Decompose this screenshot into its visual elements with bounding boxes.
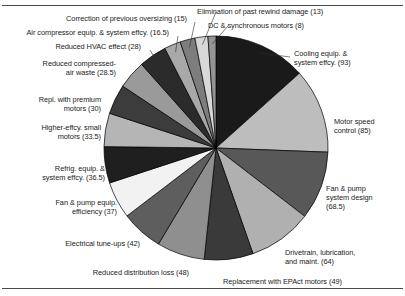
slice-label-dc-sync-motors: DC & synchronous motors (8) (208, 22, 304, 31)
slice-label-electrical-tuneups: Electrical tune-ups (42) (0, 240, 140, 249)
slice-label-epact-motors: Replacement with EPAct motors (49) (223, 278, 342, 287)
slice-label-distribution-loss: Reduced distribution loss (48) (0, 269, 189, 278)
slice-label-small-motors: Higher-effcy. small motors (33.5) (0, 124, 101, 142)
slice-label-motor-speed-control: Motor speed control (85) (334, 118, 375, 136)
pie-chart-figure: Cooling equip. & system effcy. (93) Moto… (0, 0, 405, 296)
slice-label-cooling-equip: Cooling equip. & system effcy. (93) (294, 50, 351, 68)
pie-slice-group (104, 36, 328, 260)
slice-label-hvac-effect: Reduced HVAC effect (28) (0, 43, 141, 52)
slice-label-fan-pump-equip: Fan & pump equip. efficiency (37) (0, 199, 117, 217)
slice-label-fan-pump-system: Fan & pump system design (68.5) (326, 185, 373, 211)
slice-label-refrig-equip: Refrig. equip. & system effcy. (36.5) (0, 165, 105, 183)
slice-label-rewind-damage: Elimination of past rewind damage (13) (197, 8, 323, 17)
slice-label-air-compressor: Air compressor equip. & system effcy. (1… (0, 29, 169, 38)
slice-label-compressed-air: Reduced compressed- air waste (28.5) (0, 60, 116, 78)
slice-label-drivetrain: Drivetrain, lubrication, and maint. (64) (285, 249, 355, 267)
slice-label-premium-motors: Repl. with premium motors (30) (0, 96, 101, 114)
slice-label-oversizing: Correction of previous oversizing (15) (0, 15, 187, 24)
